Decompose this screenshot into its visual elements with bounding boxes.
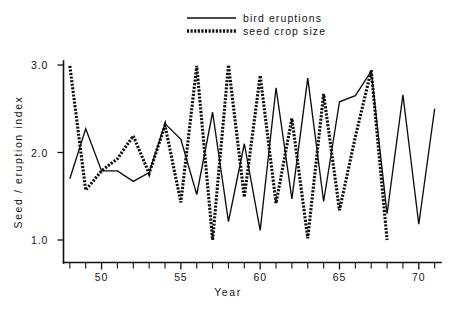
- chart-axes: [64, 61, 442, 263]
- x-axis-ticklabels: 5055606570: [95, 271, 426, 283]
- y-ticklabel-1: 1.0: [31, 234, 48, 246]
- line-chart: bird eruptions seed crop size 3.0 2.0 1.…: [0, 0, 464, 316]
- y-axis-title: Seed / eruption index: [12, 96, 24, 229]
- x-ticklabel-65: 65: [333, 271, 346, 283]
- legend-label-bird-eruptions: bird eruptions: [243, 12, 322, 24]
- y-ticklabel-2: 2.0: [31, 147, 48, 159]
- x-ticklabel-50: 50: [95, 271, 108, 283]
- x-axis-ticks: [70, 263, 435, 270]
- legend-label-seed-crop-size: seed crop size: [243, 25, 326, 37]
- chart-legend: bird eruptions seed crop size: [187, 12, 326, 37]
- y-axis-ticks: 3.0 2.0 1.0: [31, 59, 64, 246]
- chart-series: [70, 65, 435, 240]
- y-ticklabel-3: 3.0: [31, 59, 48, 71]
- x-ticklabel-60: 60: [253, 271, 266, 283]
- chart-figure: bird eruptions seed crop size 3.0 2.0 1.…: [0, 0, 464, 316]
- series-seed-crop-size: [70, 65, 387, 240]
- x-ticklabel-55: 55: [174, 271, 187, 283]
- x-ticklabel-70: 70: [412, 271, 425, 283]
- x-axis-title: Year: [214, 286, 242, 298]
